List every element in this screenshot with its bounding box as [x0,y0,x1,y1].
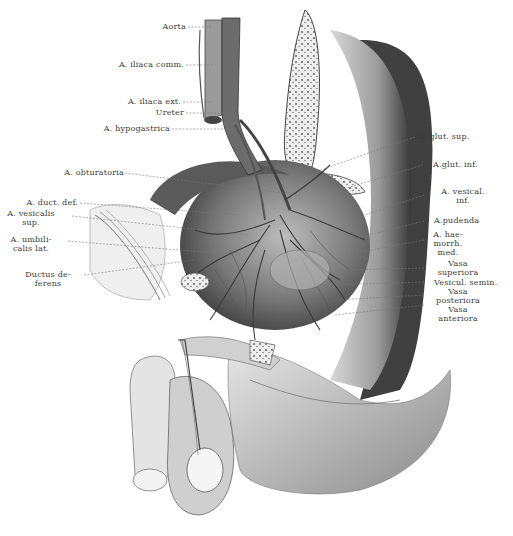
label-ductus-deferens: Ductus de- ferens [14,270,82,288]
anatomical-figure: Aorta A. iliaca comm. A. iliaca ext. Ure… [0,0,513,536]
label-vesicalis-sup: A. vesicalis sup. [0,209,62,227]
label-aorta: Aorta [130,22,186,31]
label-vesicul-semin: Vesicul. semin. [434,278,513,287]
label-glut-sup: A. glut. sup. [418,132,513,141]
label-hypogastrica: A. hypogastrica [80,124,170,133]
label-vasa-posteriora: Vasa posteriora [428,287,488,305]
label-pudenda: A.pudenda [434,216,513,225]
label-glut-inf: A.glut. inf. [433,160,513,169]
label-vesical-inf: A. vesical. inf. [428,187,498,205]
label-iliaca-comm: A. iliaca comm. [100,60,184,69]
label-vasa-superiora: Vasa superiora [428,259,488,277]
label-haemorrh-med: A. hae- morrh. med. [428,230,468,257]
label-vasa-anteriora: Vasa anteriora [428,305,488,323]
label-duct-def: A. duct. def. [0,198,78,207]
label-obturatoria: A. obturatoria [40,168,124,177]
label-ureter: Ureter [130,108,184,117]
label-umbilicalis-lat: A. umbili- calis lat. [0,235,62,253]
label-iliaca-ext: A. iliaca ext. [100,97,181,106]
